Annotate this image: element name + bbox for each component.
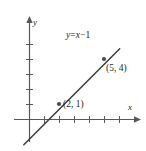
y-axis-arrow-icon bbox=[26, 16, 32, 23]
data-point-label-2-1: (2, 1) bbox=[63, 100, 84, 110]
y-axis bbox=[26, 16, 33, 142]
equation-label: y=x−1 bbox=[66, 31, 90, 41]
graph-canvas bbox=[0, 0, 146, 151]
line-graph-figure: y=x−1 y x (2, 1) (5, 4) bbox=[0, 0, 146, 151]
equation-constant: 1 bbox=[86, 30, 91, 40]
data-point-label-5-4: (5, 4) bbox=[106, 64, 127, 74]
x-axis-arrow-icon bbox=[134, 116, 141, 122]
x-axis bbox=[14, 116, 141, 123]
y-axis-label: y bbox=[33, 18, 37, 27]
data-point-5-4-marker bbox=[102, 57, 106, 61]
x-axis-label: x bbox=[128, 103, 132, 112]
data-point-2-1-marker bbox=[57, 102, 61, 106]
